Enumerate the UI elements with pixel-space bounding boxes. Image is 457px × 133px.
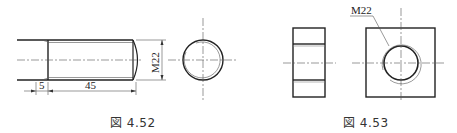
dim-chamfer-length: 5 — [39, 79, 45, 91]
bolt-side-view — [17, 40, 142, 80]
caption-fig-4-52: 図 4.52 — [110, 113, 156, 130]
dim-thread-length: 45 — [85, 79, 97, 91]
caption-fig-4-53: 図 4.53 — [343, 113, 389, 130]
nut-side-view — [283, 28, 336, 97]
nut-front-view — [352, 8, 446, 100]
bolt-end-view — [168, 18, 238, 100]
nut-thread-leader — [350, 16, 389, 46]
dim-thread-size-nut: M22 — [351, 4, 372, 16]
dim-thread-size-bolt: M22 — [149, 52, 161, 73]
